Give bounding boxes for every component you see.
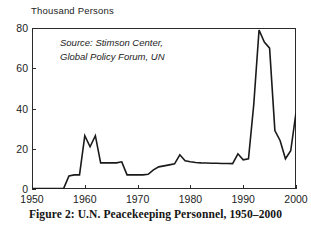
y-tick-mark [32,109,36,110]
x-tick-label-1960: 1960 [73,193,96,205]
figure-container: Thousand Persons Source: Stimson Center,… [0,0,311,231]
y-tick-mark [32,189,36,190]
x-tick-mark [296,185,297,189]
y-tick-mark [32,149,36,150]
x-tick-mark [138,185,139,189]
source-line-1: Source: Stimson Center, [60,36,165,50]
x-tick-label-1990: 1990 [232,193,255,205]
x-tick-mark [32,185,33,189]
y-tick-mark [32,68,36,69]
source-annotation: Source: Stimson Center, Global Policy Fo… [60,36,165,64]
y-tick-label-80: 80 [16,22,28,34]
plot-area: Source: Stimson Center, Global Policy Fo… [32,28,296,189]
y-axis-unit-label: Thousand Persons [31,5,114,16]
x-tick-label-1980: 1980 [179,193,202,205]
y-tick-mark [32,28,36,29]
x-tick-label-2000: 2000 [284,193,307,205]
figure-caption: Figure 2: U.N. Peacekeeping Personnel, 1… [0,208,311,220]
y-tick-label-60: 60 [16,62,28,74]
y-tick-label-20: 20 [16,143,28,155]
x-tick-label-1950: 1950 [20,193,43,205]
source-line-2: Global Policy Forum, UN [60,50,165,64]
x-tick-label-1970: 1970 [126,193,149,205]
y-tick-label-40: 40 [16,103,28,115]
x-tick-mark [85,185,86,189]
x-tick-mark [190,185,191,189]
x-tick-mark [243,185,244,189]
